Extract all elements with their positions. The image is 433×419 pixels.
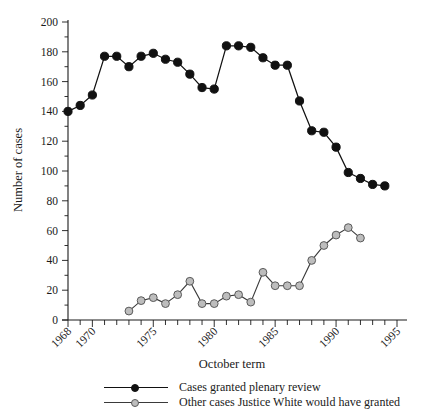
y-axis-title: Number of cases — [11, 128, 25, 212]
data-point — [357, 234, 365, 242]
data-point — [113, 52, 121, 60]
data-point — [369, 180, 377, 188]
data-point — [344, 168, 352, 176]
legend-label-secondary: Other cases Justice White would have gra… — [168, 395, 400, 410]
legend-entry-secondary: Other cases Justice White would have gra… — [0, 395, 433, 410]
legend-label-primary: Cases granted plenary review — [168, 380, 321, 395]
data-point — [100, 52, 108, 60]
y-tick-label: 120 — [41, 135, 59, 147]
data-point — [149, 294, 157, 302]
y-tick-label: 80 — [47, 195, 59, 207]
data-point — [283, 282, 291, 290]
series-line-secondary — [129, 228, 361, 311]
data-point — [137, 297, 145, 305]
data-point — [234, 42, 242, 50]
data-point — [198, 83, 206, 91]
data-point — [174, 291, 182, 299]
data-point — [259, 54, 267, 62]
data-point — [320, 128, 328, 136]
data-point — [271, 61, 279, 69]
data-point — [259, 268, 267, 276]
data-point — [308, 127, 316, 135]
x-tick-label: 1968 — [49, 325, 74, 350]
data-point — [137, 52, 145, 60]
open-circle-marker-icon — [104, 396, 168, 409]
data-point — [210, 85, 218, 93]
data-point — [88, 91, 96, 99]
x-tick-label: 1985 — [256, 325, 281, 350]
data-point — [222, 42, 230, 50]
chart-figure: 020406080100120140160180200 196819701975… — [0, 0, 433, 419]
data-point — [271, 282, 279, 290]
y-tick-label: 60 — [47, 225, 59, 237]
data-point — [210, 300, 218, 308]
x-tick-label: 1975 — [134, 325, 159, 350]
data-point — [186, 70, 194, 78]
y-tick-label: 160 — [41, 76, 59, 88]
x-tick-label: 1970 — [73, 325, 98, 350]
data-point — [64, 107, 72, 115]
y-tick-label: 0 — [52, 314, 58, 326]
series-line-primary — [68, 46, 385, 186]
data-series-group — [64, 42, 389, 315]
legend-entry-primary: Cases granted plenary review — [0, 380, 433, 395]
data-point — [174, 58, 182, 66]
y-tick-label: 40 — [47, 254, 59, 266]
data-point — [296, 282, 304, 290]
data-point — [332, 143, 340, 151]
data-point — [76, 101, 84, 109]
y-tick-label: 20 — [47, 284, 59, 296]
y-tick-label: 180 — [41, 46, 59, 58]
line-chart-canvas: 020406080100120140160180200 196819701975… — [0, 0, 433, 419]
data-point — [161, 55, 169, 63]
data-point — [295, 97, 303, 105]
x-tick-label: 1990 — [317, 325, 342, 350]
x-tick-label: 1995 — [378, 325, 403, 350]
data-point — [308, 257, 316, 265]
x-tick-label: 1980 — [195, 325, 220, 350]
data-point — [381, 182, 389, 190]
x-axis: 1968197019751980198519901995 — [49, 320, 407, 350]
chart-legend: Cases granted plenary review Other cases… — [0, 380, 433, 410]
data-point — [162, 300, 170, 308]
y-tick-label: 140 — [41, 105, 59, 117]
data-point — [332, 231, 340, 239]
data-point — [247, 43, 255, 51]
y-axis: 020406080100120140160180200 — [41, 16, 68, 326]
filled-circle-marker-icon — [104, 381, 168, 394]
y-tick-label: 200 — [41, 16, 59, 28]
data-point — [235, 291, 243, 299]
data-point — [223, 292, 231, 300]
data-point — [356, 174, 364, 182]
data-point — [247, 298, 255, 306]
data-point — [149, 49, 157, 57]
x-axis-title: October term — [199, 357, 266, 371]
data-point — [344, 224, 352, 232]
data-point — [125, 63, 133, 71]
data-point — [283, 61, 291, 69]
data-point — [186, 277, 194, 285]
data-point — [320, 242, 328, 250]
data-point — [125, 307, 133, 315]
y-tick-label: 100 — [41, 165, 59, 177]
data-point — [198, 300, 206, 308]
